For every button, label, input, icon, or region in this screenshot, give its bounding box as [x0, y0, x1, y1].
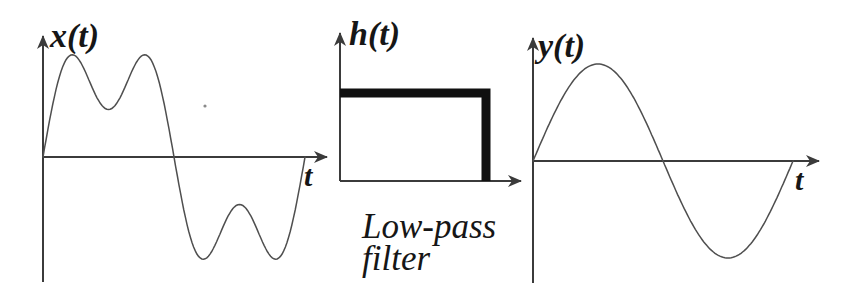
input-signal-label: x(t) [49, 17, 99, 55]
plot-input-signal: x(t) t [43, 17, 327, 282]
filter-caption-line2: filter [362, 239, 430, 278]
input-time-axis-label: t [304, 159, 314, 192]
filter-signal-label: h(t) [349, 15, 400, 53]
filter-response-rect [340, 93, 486, 181]
output-signal-label: y(t) [534, 27, 585, 65]
scan-speck [203, 104, 206, 107]
output-time-axis-label: t [795, 163, 805, 196]
figure-canvas: x(t) t h(t) Low-pass filter y(t) t [0, 0, 850, 296]
signal-diagram-svg: x(t) t h(t) Low-pass filter y(t) t [0, 0, 850, 296]
plot-output-signal: y(t) t [533, 27, 819, 283]
plot-filter-response: h(t) Low-pass filter [340, 15, 521, 278]
